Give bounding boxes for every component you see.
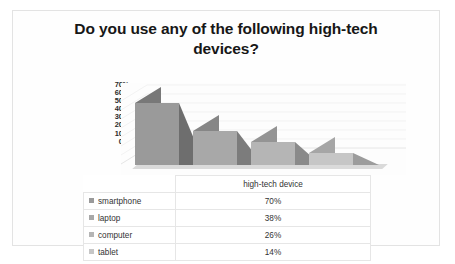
table-cell-value: 38% — [176, 210, 371, 227]
bar-front-face — [193, 131, 237, 165]
category-label: smartphone — [98, 197, 141, 206]
bar-front-face — [135, 103, 179, 165]
category-label: computer — [98, 231, 132, 240]
table-cell-category: computer — [84, 227, 176, 244]
data-table: high-tech device smartphone 70% laptop 3… — [83, 175, 371, 261]
bar-laptop — [193, 131, 237, 165]
bar-top-face — [135, 87, 161, 103]
category-label: laptop — [98, 214, 120, 223]
table-cell-value: 26% — [176, 227, 371, 244]
bar-front-face — [309, 153, 353, 165]
table-row: tablet 14% — [84, 244, 371, 261]
table-row: smartphone 70% — [84, 193, 371, 210]
legend-swatch-icon — [89, 215, 94, 220]
chart-title: Do you use any of the following high-tec… — [41, 19, 411, 59]
legend-swatch-icon — [89, 232, 94, 237]
bar-smartphone — [135, 103, 179, 165]
table-row: laptop 38% — [84, 210, 371, 227]
table-cell-value: 70% — [176, 193, 371, 210]
bar-top-face — [193, 115, 219, 131]
legend-swatch-icon — [89, 249, 94, 254]
bar-top-face — [309, 137, 335, 153]
legend-swatch-icon — [89, 198, 94, 203]
table-cell-value: 14% — [176, 244, 371, 261]
bar-top-face — [251, 126, 277, 142]
bar-side-face — [353, 137, 379, 165]
table-row: computer 26% — [84, 227, 371, 244]
chart-frame: Do you use any of the following high-tec… — [12, 10, 440, 246]
bar-computer — [251, 142, 295, 165]
table-header-blank — [84, 176, 176, 193]
plot-area — [121, 83, 406, 175]
table-header-row: high-tech device — [84, 176, 371, 193]
table-cell-category: smartphone — [84, 193, 176, 210]
bar-tablet — [309, 153, 353, 165]
table-header-series: high-tech device — [176, 176, 371, 193]
bar-front-face — [251, 142, 295, 165]
table-cell-category: laptop — [84, 210, 176, 227]
table-cell-category: tablet — [84, 244, 176, 261]
category-label: tablet — [98, 248, 118, 257]
